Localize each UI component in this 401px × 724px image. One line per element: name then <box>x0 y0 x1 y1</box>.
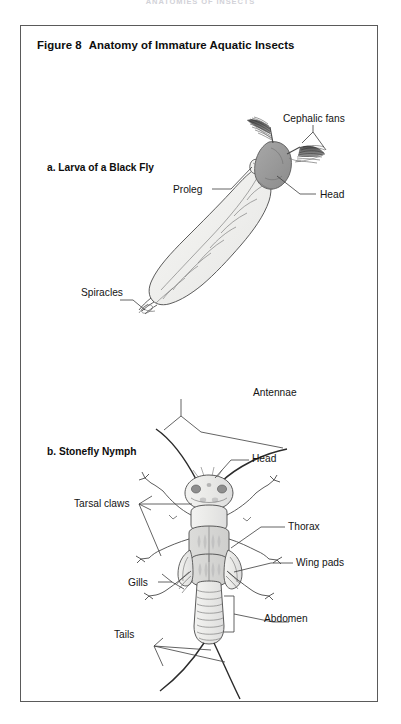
callout-gills: Gills <box>128 577 148 588</box>
callout-head-stonefly: Head <box>252 453 277 464</box>
callout-wing-pads: Wing pads <box>296 557 344 568</box>
running-header: ANATOMIES OF INSECTS <box>0 0 401 6</box>
callout-abdomen: Abdomen <box>264 613 308 624</box>
callout-tails: Tails <box>114 629 134 640</box>
stonefly-abdomen <box>194 581 224 644</box>
callout-antennae: Antennae <box>253 387 297 398</box>
figure-frame: Figure 8Anatomy of Immature Aquatic Inse… <box>20 25 378 702</box>
stonefly-thorax <box>189 505 229 587</box>
stonefly-nymph-illustration: Antennae Head Tarsal claws Thorax Wing p… <box>21 26 379 703</box>
stonefly-tails <box>160 643 240 699</box>
callout-tarsal-claws: Tarsal claws <box>74 498 129 509</box>
callout-thorax: Thorax <box>288 521 320 532</box>
